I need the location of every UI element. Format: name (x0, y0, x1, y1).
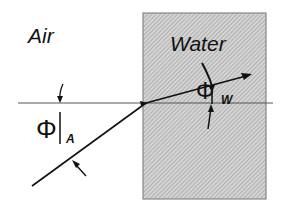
phi-w-subscript: W (221, 93, 232, 107)
phi-a-subscript: A (66, 132, 75, 146)
arrowhead-icon (57, 96, 63, 103)
air-label: Air (28, 24, 54, 48)
water-label: Water (170, 32, 226, 56)
phi-w-symbol: Φ (196, 80, 214, 103)
arrowhead-icon (72, 160, 80, 168)
phi-a-symbol: Φ (36, 116, 57, 142)
angle-arrow-a-bottom-icon (76, 165, 86, 176)
